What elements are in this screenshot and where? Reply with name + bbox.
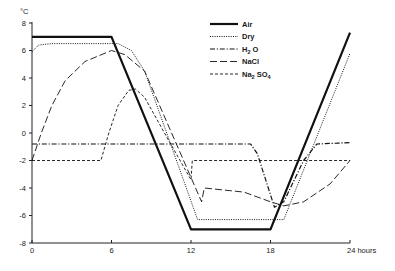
legend-item-dry: Dry <box>210 32 255 41</box>
x-tick-label: 6 <box>109 246 113 255</box>
y-tick-label: 8 <box>22 19 26 28</box>
temperature-line-chart: 86420-2-4-6-8 06121824 hours °C AirDryH2… <box>0 0 395 271</box>
series-line-na2so4 <box>32 89 350 180</box>
legend-label: NaCl <box>242 57 259 66</box>
x-ticks: 06121824 hours <box>30 240 377 255</box>
legend-label: Na2 SO4 <box>242 70 272 80</box>
y-tick-label: -6 <box>19 211 26 220</box>
x-tick-label: 12 <box>187 246 195 255</box>
legend-item-air: Air <box>210 20 253 29</box>
x-tick-label: 18 <box>266 246 274 255</box>
y-axis-unit-label: °C <box>20 7 29 16</box>
series-line-dry <box>32 44 350 220</box>
x-tick-label: 0 <box>30 246 34 255</box>
legend-item-h2o: H2 O <box>210 45 259 55</box>
y-tick-label: 4 <box>22 74 26 83</box>
y-ticks: 86420-2-4-6-8 <box>19 19 32 248</box>
y-tick-label: 0 <box>22 129 26 138</box>
x-tick-label: 24 hours <box>347 246 376 255</box>
axes: 86420-2-4-6-8 06121824 hours °C <box>19 7 376 255</box>
y-tick-label: -4 <box>19 184 26 193</box>
legend-item-nacl: NaCl <box>210 57 259 66</box>
legend-label: Air <box>242 20 253 29</box>
series-line-nacl <box>32 51 350 206</box>
legend: AirDryH2 ONaClNa2 SO4 <box>210 20 272 80</box>
legend-label: Dry <box>242 32 255 41</box>
y-tick-label: -2 <box>19 156 26 165</box>
legend-item-na2so4: Na2 SO4 <box>210 70 272 80</box>
legend-label: H2 O <box>242 45 259 55</box>
y-tick-label: 2 <box>22 101 26 110</box>
y-tick-label: -8 <box>19 239 26 248</box>
y-tick-label: 6 <box>22 46 26 55</box>
series-lines <box>32 33 350 230</box>
